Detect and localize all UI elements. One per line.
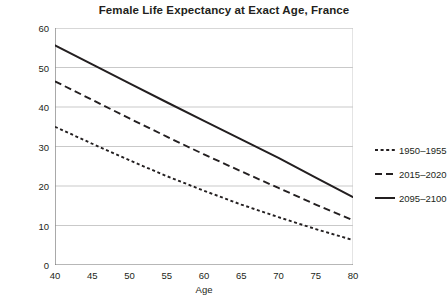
chart-root: Female Life Expectancy at Exact Age, Fra… xyxy=(0,0,448,304)
series-line-2 xyxy=(55,45,353,197)
series-line-0 xyxy=(55,127,353,240)
x-axis-title: Age xyxy=(55,284,353,295)
x-tick-label: 65 xyxy=(236,270,247,281)
y-tick-label: 50 xyxy=(38,62,49,73)
legend-swatch-dotted xyxy=(375,145,395,155)
y-tick-label: 20 xyxy=(38,181,49,192)
chart-title: Female Life Expectancy at Exact Age, Fra… xyxy=(0,4,448,16)
legend-item[interactable]: 2095–2100 xyxy=(375,186,448,210)
legend-swatch-dashed xyxy=(375,169,395,179)
legend-label: 2015–2020 xyxy=(399,169,447,180)
legend-label: 1950–1955 xyxy=(399,145,447,156)
x-tick-label: 50 xyxy=(124,270,135,281)
legend-swatch-solid xyxy=(375,193,395,203)
y-tick-label: 40 xyxy=(38,102,49,113)
plot-canvas xyxy=(55,28,353,265)
series-line-1 xyxy=(55,81,353,220)
legend-item[interactable]: 2015–2020 xyxy=(375,162,448,186)
x-tick-label: 55 xyxy=(161,270,172,281)
x-tick-label: 60 xyxy=(199,270,210,281)
y-tick-label: 60 xyxy=(38,23,49,34)
x-tick-label: 80 xyxy=(348,270,359,281)
x-tick-label: 75 xyxy=(310,270,321,281)
legend-item[interactable]: 1950–1955 xyxy=(375,138,448,162)
y-tick-label: 30 xyxy=(38,141,49,152)
x-tick-label: 40 xyxy=(50,270,61,281)
x-tick-label: 45 xyxy=(87,270,98,281)
y-tick-label: 10 xyxy=(38,220,49,231)
plot-area: 0102030405060404550556065707580 xyxy=(55,28,353,265)
x-tick-label: 70 xyxy=(273,270,284,281)
y-tick-label: 0 xyxy=(44,260,49,271)
legend-label: 2095–2100 xyxy=(399,193,447,204)
chart-legend: 1950–19552015–20202095–2100 xyxy=(375,138,448,210)
